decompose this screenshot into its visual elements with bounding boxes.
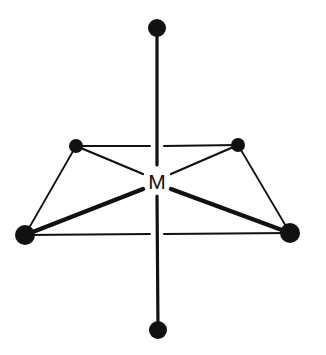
center-atom-label: M	[148, 170, 166, 193]
atom-axial-top	[148, 19, 166, 37]
bond-back-left	[76, 146, 143, 174]
atom-back-right	[231, 138, 245, 152]
atom-axial-bottom	[149, 321, 167, 339]
bond-axial-bottom	[157, 196, 158, 330]
octahedral-diagram: M	[0, 0, 326, 355]
bond-front-left	[25, 189, 143, 235]
edge-right	[238, 145, 290, 233]
bond-front-right	[171, 189, 290, 233]
edge-front	[25, 234, 150, 235]
bond-back-right	[171, 145, 238, 174]
atom-front-left	[15, 225, 35, 245]
edge-back-2	[164, 145, 238, 146]
atom-back-left	[69, 139, 83, 153]
edge-front-2	[164, 233, 290, 234]
atom-front-right	[280, 223, 300, 243]
edge-left	[25, 146, 76, 235]
